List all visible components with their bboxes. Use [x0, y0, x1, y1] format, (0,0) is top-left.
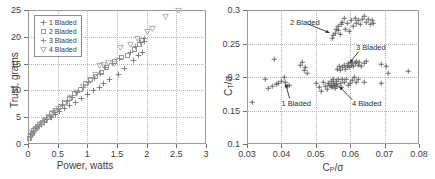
x-tick: [281, 144, 282, 148]
data-point-4-bladed: [175, 7, 182, 14]
y-tick-label: 25: [0, 5, 21, 15]
x-tick: [117, 144, 118, 148]
y-gridline: [28, 90, 206, 91]
annotation-label: 1 Bladed: [281, 99, 311, 108]
y-tick-label: 0.15: [215, 106, 240, 116]
x-tick: [316, 144, 317, 148]
x-tick: [58, 144, 59, 148]
legend-label: 3 Bladed: [49, 36, 77, 45]
legend-marker-icon: [38, 18, 49, 27]
data-point: [40, 46, 47, 53]
y-gridline: [247, 44, 419, 45]
data-point: [378, 80, 385, 87]
x-tick: [206, 144, 207, 148]
data-point: [40, 37, 47, 44]
data-point-4-bladed: [127, 41, 134, 48]
legend-item-4-bladed[interactable]: 4 Bladed: [38, 45, 77, 54]
data-point: [361, 79, 368, 86]
x-tick-label: 2: [144, 149, 149, 159]
legend-item-1-bladed[interactable]: 1 Bladed: [38, 18, 77, 27]
x-tick-label: 0.05: [307, 149, 325, 159]
data-point: [370, 20, 377, 27]
data-point: [385, 70, 392, 77]
x-tick-label: 1: [85, 149, 90, 159]
data-point: [262, 76, 269, 83]
data-point-4-bladed: [162, 13, 169, 20]
y-tick: [243, 144, 247, 145]
x-tick: [350, 144, 351, 148]
data-point: [249, 99, 256, 106]
legend-label: 2 Bladed: [49, 27, 77, 36]
plot-area-left: 1 Bladed2 Bladed3 Bladed4 Bladed: [28, 10, 206, 144]
x-tick: [147, 144, 148, 148]
panel-thrust-vs-power: 1 Bladed2 Bladed3 Bladed4 Bladed Trust, …: [0, 0, 215, 179]
data-point-3-bladed: [141, 35, 148, 42]
y-tick-label: 0.2: [215, 72, 240, 82]
data-point-1-bladed: [139, 49, 146, 56]
x-tick: [247, 144, 248, 148]
data-point-1-bladed: [106, 76, 113, 83]
x-axis-title-left: Power, watts: [57, 160, 114, 171]
x-tick-label: 0.04: [273, 149, 291, 159]
data-point-4-bladed: [149, 25, 156, 32]
legend-item-3-bladed[interactable]: 3 Bladed: [38, 36, 77, 45]
y-tick: [24, 10, 28, 11]
data-point: [41, 29, 46, 34]
legend-label: 1 Bladed: [49, 18, 77, 27]
x-tick-label: 0.03: [238, 149, 256, 159]
y-tick: [24, 64, 28, 65]
x-tick-label: 0.06: [341, 149, 359, 159]
annotation-label: 3 Bladed: [356, 43, 386, 52]
data-point-4-bladed: [134, 35, 141, 42]
data-point-4-bladed: [80, 83, 87, 90]
y-tick-label: 0.1: [215, 139, 240, 149]
x-tick-label: 3: [203, 149, 208, 159]
y-tick-label: 5: [0, 112, 21, 122]
y-tick-label: 20: [0, 32, 21, 42]
x-axis-title-right: CP/σ: [323, 162, 344, 173]
y-tick: [243, 44, 247, 45]
x-tick-label: 1.5: [111, 149, 124, 159]
data-point: [405, 68, 412, 75]
x-gridline: [176, 10, 177, 144]
legend-marker-icon: [38, 36, 49, 45]
legend-item-2-bladed[interactable]: 2 Bladed: [38, 27, 77, 36]
data-point-1-bladed: [121, 65, 128, 72]
y-tick-label: 0.25: [215, 39, 240, 49]
legend-label: 4 Bladed: [49, 45, 77, 54]
y-tick-label: 0.3: [215, 5, 240, 15]
data-point-4-bladed: [92, 71, 99, 78]
legend-marker-icon: [38, 27, 49, 36]
data-point: [286, 82, 293, 89]
y-tick-label: 10: [0, 85, 21, 95]
y-tick-label: 0: [0, 139, 21, 149]
y-tick: [24, 144, 28, 145]
x-tick-label: 2.5: [170, 149, 183, 159]
y-tick-label: 15: [0, 59, 21, 69]
figure-two-panel-scatter: 1 Bladed2 Bladed3 Bladed4 Bladed Trust, …: [0, 0, 435, 179]
plot-area-right: 2 Bladed3 Bladed1 Bladed4 Bladed: [247, 10, 419, 144]
x-tick-label: 0.5: [51, 149, 64, 159]
y-tick: [24, 90, 28, 91]
y-gridline: [247, 111, 419, 112]
panel-ct-vs-cp: 2 Bladed3 Bladed1 Bladed4 Bladed CT/σ CP…: [215, 0, 435, 179]
x-tick: [176, 144, 177, 148]
x-tick-label: 0.07: [376, 149, 394, 159]
data-point: [363, 58, 370, 65]
y-tick: [243, 10, 247, 11]
annotation-label: 4 Bladed: [352, 99, 382, 108]
data-point: [271, 56, 278, 63]
y-tick: [243, 77, 247, 78]
x-tick-label: 0.08: [410, 149, 428, 159]
legend-marker-icon: [38, 45, 49, 54]
x-axis-title-right-text: CP/σ: [323, 162, 344, 173]
data-point: [304, 70, 311, 77]
x-tick-label: 0: [25, 149, 30, 159]
x-tick: [385, 144, 386, 148]
y-tick: [24, 37, 28, 38]
x-tick: [87, 144, 88, 148]
x-tick: [419, 144, 420, 148]
legend-left: 1 Bladed2 Bladed3 Bladed4 Bladed: [34, 15, 82, 57]
annotation-label: 2 Bladed: [290, 18, 320, 27]
data-point-4-bladed: [111, 60, 118, 67]
